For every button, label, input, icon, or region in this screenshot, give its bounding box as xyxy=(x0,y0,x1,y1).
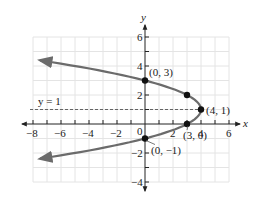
x-ticks xyxy=(33,120,229,124)
y-tick-label: 2 xyxy=(137,89,143,101)
point-label: (0, −1) xyxy=(151,144,181,157)
data-point xyxy=(142,77,148,83)
y-axis-label: y xyxy=(140,11,146,23)
point-label: (4, 1) xyxy=(206,104,230,117)
y-ticks xyxy=(145,37,149,182)
point-label: (0, 3) xyxy=(149,66,173,79)
data-point xyxy=(184,121,190,127)
parabola-graph: y = 1 x y −8 −6 −4 −2 0 2 4 6 xyxy=(0,0,266,204)
x-tick-label: −8 xyxy=(26,127,38,139)
x-tick-label: 6 xyxy=(226,127,232,139)
data-point xyxy=(184,92,190,98)
x-axis-label: x xyxy=(242,117,248,129)
x-tick-label: 0 xyxy=(137,125,143,137)
y-tick-label: −4 xyxy=(131,176,143,188)
y-tick-label: 6 xyxy=(137,31,143,43)
x-tick-label: −6 xyxy=(54,127,66,139)
x-tick-label: −2 xyxy=(110,127,122,139)
x-tick-label: −4 xyxy=(82,127,94,139)
point-label: (3, 0) xyxy=(183,129,207,142)
symmetry-label: y = 1 xyxy=(38,95,61,107)
y-tick-label: −2 xyxy=(131,147,143,159)
y-tick-label: 4 xyxy=(137,60,143,72)
data-point xyxy=(198,106,204,112)
